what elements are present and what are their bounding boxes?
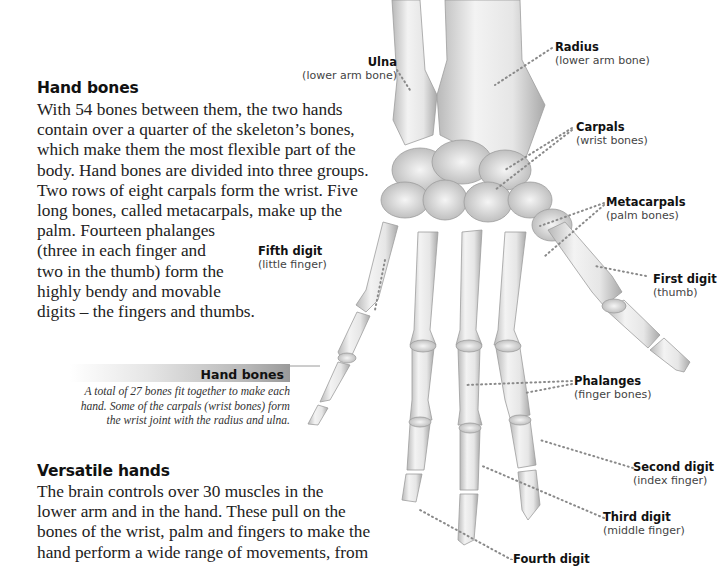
text-line: digits – the fingers and thumbs.	[37, 302, 382, 322]
caption-line: the wrist joint with the radius and ulna…	[70, 414, 290, 429]
label-sub: (little finger)	[258, 258, 327, 271]
caption-text: A total of 27 bones fit together to make…	[70, 385, 290, 429]
label-fifth-digit: Fifth digit (little finger)	[258, 244, 327, 271]
label-title: Radius	[555, 40, 650, 54]
text-line: hand perform a wide range of movements, …	[37, 543, 407, 563]
text-line: Two rows of eight carpals form the wrist…	[37, 181, 382, 201]
label-title: Fourth digit	[513, 552, 590, 566]
label-title: Fifth digit	[258, 244, 327, 258]
caption-line: A total of 27 bones fit together to make…	[70, 385, 290, 400]
label-title: Ulna	[287, 55, 397, 69]
label-title: Third digit	[603, 510, 685, 524]
caption-box: Hand bones A total of 27 bones fit toget…	[70, 364, 290, 429]
label-radius: Radius (lower arm bone)	[555, 40, 650, 67]
text-line: palm. Fourteen phalanges	[37, 221, 382, 241]
label-sub: (lower arm bone)	[555, 54, 650, 67]
text-line: which make them the most flexible part o…	[37, 140, 382, 160]
label-title: Metacarpals	[606, 195, 686, 209]
section-body-hand-bones: With 54 bones between them, the two hand…	[37, 100, 382, 322]
text-line: contain over a quarter of the skeleton’s…	[37, 120, 382, 140]
text-line: lower arm and in the hand. These pull on…	[37, 502, 407, 522]
label-title: Phalanges	[574, 374, 651, 388]
label-fourth-digit: Fourth digit	[513, 552, 590, 566]
label-first-digit: First digit (thumb)	[653, 272, 717, 299]
label-second-digit: Second digit (index finger)	[633, 460, 714, 487]
caption-line: hand. Some of the carpals (wrist bones) …	[70, 400, 290, 415]
section-heading-versatile-hands: Versatile hands	[37, 462, 170, 480]
label-title: Second digit	[633, 460, 714, 474]
label-sub: (finger bones)	[574, 388, 651, 401]
text-line: bones of the wrist, palm and fingers to …	[37, 522, 407, 542]
label-title: First digit	[653, 272, 717, 286]
label-sub: (thumb)	[653, 286, 717, 299]
label-sub: (palm bones)	[606, 209, 686, 222]
section-heading-hand-bones: Hand bones	[37, 79, 138, 97]
caption-title-bar: Hand bones	[70, 364, 290, 382]
label-third-digit: Third digit (middle finger)	[603, 510, 685, 537]
text-line: The brain controls over 30 muscles in th…	[37, 482, 407, 502]
label-sub: (index finger)	[633, 474, 714, 487]
text-line: highly bendy and movable	[37, 282, 382, 302]
section-body-versatile-hands: The brain controls over 30 muscles in th…	[37, 482, 407, 563]
text-line: With 54 bones between them, the two hand…	[37, 100, 382, 120]
text-line: (three in each finger and	[37, 241, 382, 261]
caption-title: Hand bones	[201, 367, 284, 382]
label-ulna: Ulna (lower arm bone)	[287, 55, 397, 82]
text-line: two in the thumb) form the	[37, 262, 382, 282]
label-sub: (lower arm bone)	[287, 69, 397, 82]
label-metacarpals: Metacarpals (palm bones)	[606, 195, 686, 222]
label-carpals: Carpals (wrist bones)	[576, 120, 648, 147]
text-line: body. Hand bones are divided into three …	[37, 161, 382, 181]
text-line: long bones, called metacarpals, make up …	[37, 201, 382, 221]
label-sub: (middle finger)	[603, 524, 685, 537]
label-phalanges: Phalanges (finger bones)	[574, 374, 651, 401]
label-sub: (wrist bones)	[576, 134, 648, 147]
label-title: Carpals	[576, 120, 648, 134]
